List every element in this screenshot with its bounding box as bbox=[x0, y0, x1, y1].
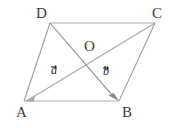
edge-BC-line bbox=[119, 23, 155, 101]
vertex-label-O: O bbox=[84, 39, 95, 54]
geometry-figure: D C O A B a b bbox=[0, 0, 179, 128]
vector-b-text: b bbox=[103, 64, 109, 78]
vector-a-text: a bbox=[51, 63, 57, 77]
vector-label-b: b bbox=[103, 65, 109, 77]
vertex-label-D: D bbox=[36, 6, 47, 21]
vertex-label-C: C bbox=[152, 6, 162, 21]
vertex-label-B: B bbox=[122, 105, 132, 120]
vector-b-arrowhead bbox=[108, 93, 119, 101]
vector-label-a: a bbox=[51, 64, 57, 76]
vertex-label-A: A bbox=[16, 105, 27, 120]
vector-b-shaft bbox=[50, 23, 115, 98]
vector-a-shaft bbox=[29, 23, 155, 100]
